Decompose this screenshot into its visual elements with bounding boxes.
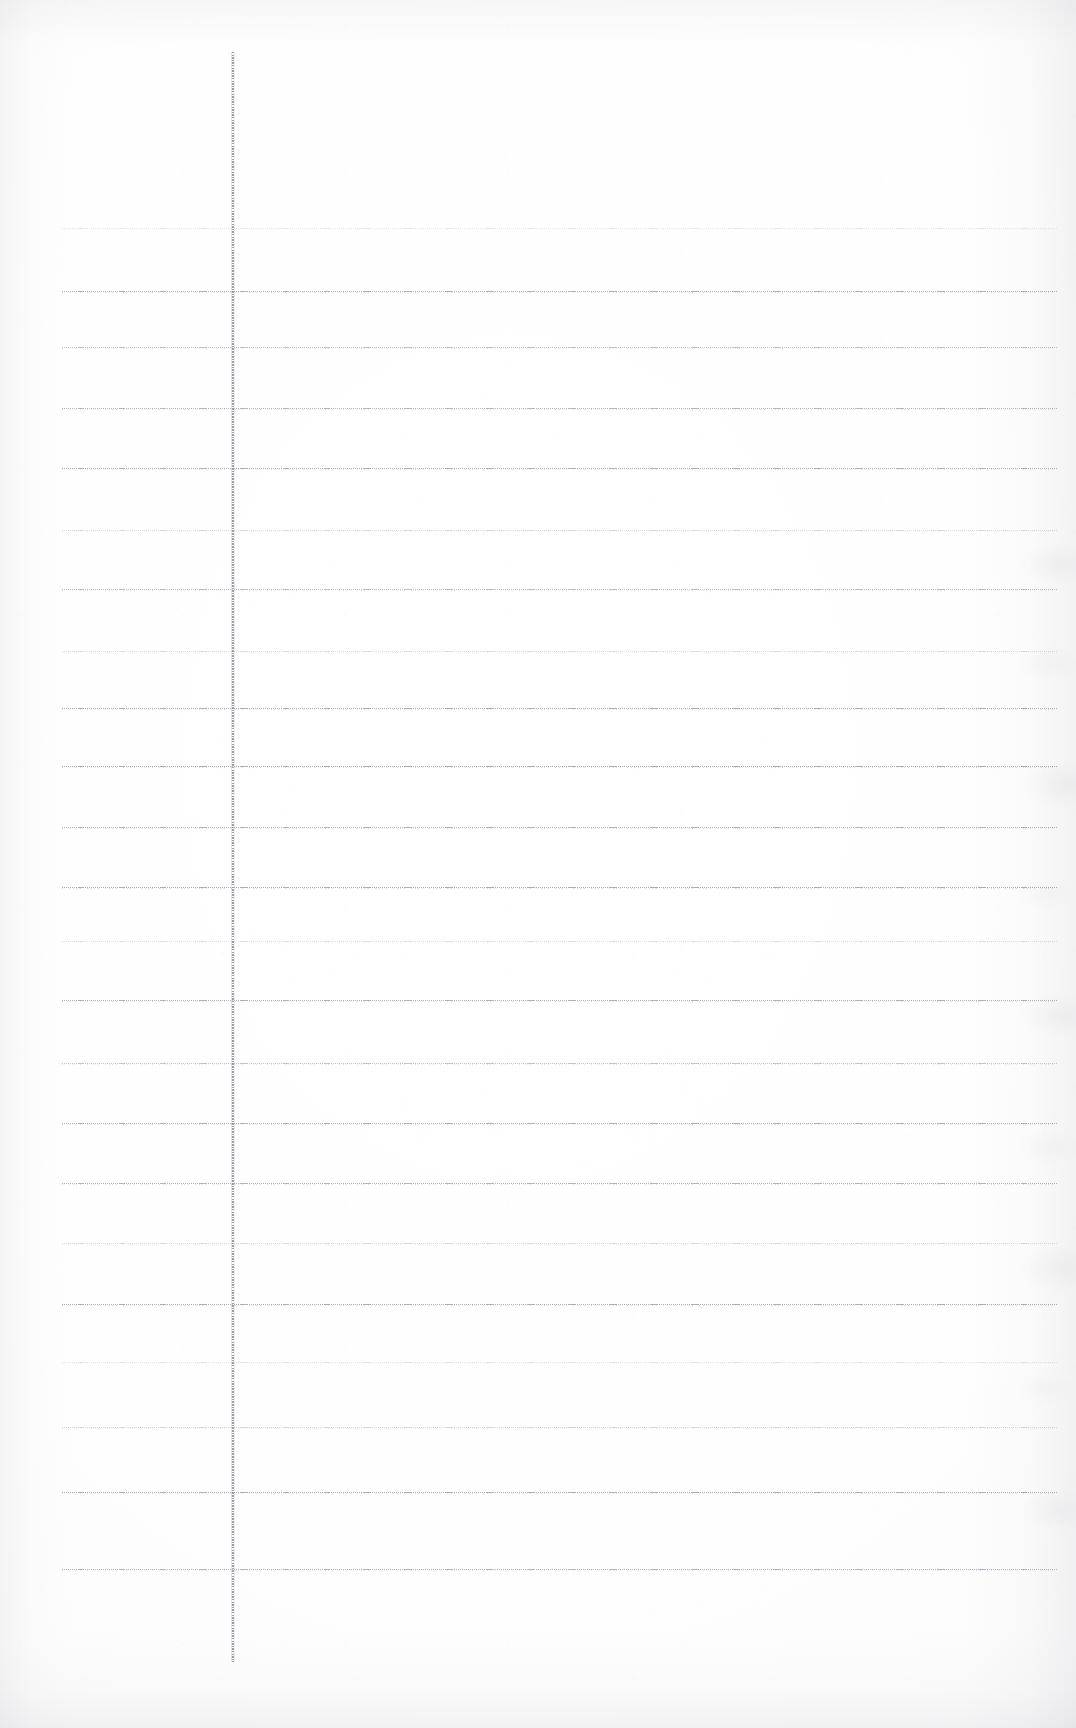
scanned-page: [0, 0, 1076, 1728]
paper-background: [0, 0, 1076, 1728]
vertical-margin-line: [232, 52, 234, 1662]
